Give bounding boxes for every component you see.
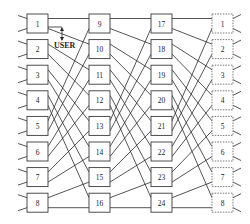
switch-node-label: 4	[36, 96, 40, 105]
shuffle-wire	[110, 182, 151, 198]
switch-node-label: 24	[158, 199, 166, 208]
output-stub	[233, 157, 241, 161]
switch-node-label: 3	[221, 71, 225, 80]
input-stub	[18, 182, 27, 185]
switch-node-label: 19	[158, 71, 166, 80]
output-stub	[233, 117, 241, 121]
output-stub	[233, 105, 241, 109]
input-stub	[18, 29, 27, 32]
shuffle-wire	[172, 29, 212, 121]
omega-network-diagram: 1234567891011121314151617181920212223241…	[0, 0, 250, 224]
input-stub	[18, 208, 27, 211]
shuffle-wire	[48, 54, 89, 131]
shuffle-wire	[172, 54, 212, 131]
switch-node-label: 17	[158, 20, 166, 29]
switch-node-label: 7	[221, 173, 225, 182]
switch-node-label: 2	[36, 45, 40, 54]
stage-2-column: 910111213141516	[89, 14, 110, 212]
input-stub	[18, 67, 27, 70]
output-stub	[233, 194, 241, 198]
switch-node-label: 20	[158, 96, 166, 105]
shuffle-wire	[48, 157, 89, 183]
switch-node-label: 3	[36, 71, 40, 80]
switch-node-label: 9	[98, 20, 102, 29]
user-label: USER	[54, 41, 76, 50]
input-stub	[18, 169, 27, 172]
output-stub	[233, 168, 241, 172]
input-stub	[18, 144, 27, 147]
switch-node-label: 7	[36, 173, 40, 182]
switch-node-label: 16	[96, 199, 104, 208]
switch-node-label: 10	[96, 45, 104, 54]
stage-3-column: 1718192021222324	[151, 14, 172, 212]
output-stub	[233, 54, 241, 58]
input-stub	[18, 16, 27, 19]
shuffle-wire	[110, 29, 151, 121]
shuffle-wire	[48, 182, 89, 198]
output-stub	[233, 15, 241, 19]
stage-4-column: 12345678	[212, 14, 233, 212]
output-stub	[233, 131, 241, 135]
output-stub	[233, 143, 241, 147]
shuffle-wire	[110, 54, 151, 131]
shuffle-wire	[172, 157, 212, 183]
switch-node-label: 8	[221, 199, 225, 208]
shuffle-wire	[172, 182, 212, 198]
input-stub	[18, 195, 27, 198]
stage-1-column: 12345678	[27, 14, 48, 212]
output-stub	[233, 80, 241, 84]
input-stub	[18, 118, 27, 121]
switch-node-label: 6	[36, 148, 40, 157]
shuffle-wire	[110, 157, 151, 183]
output-stub	[233, 29, 241, 33]
input-stub	[18, 54, 27, 57]
input-stub	[18, 105, 27, 108]
switch-node-label: 5	[221, 122, 225, 131]
switch-node-label: 12	[96, 96, 104, 105]
output-stub	[233, 91, 241, 95]
switch-node-label: 1	[36, 20, 40, 29]
switch-node-label: 6	[221, 148, 225, 157]
output-stub	[233, 40, 241, 44]
wires	[18, 15, 241, 212]
switch-node-label: 13	[96, 122, 104, 131]
switch-node-label: 23	[158, 173, 166, 182]
switch-node-label: 5	[36, 122, 40, 131]
input-stub	[18, 131, 27, 134]
input-stub	[18, 157, 27, 160]
input-stub	[18, 92, 27, 95]
arrow-up-head-icon	[60, 27, 64, 31]
switch-node-label: 8	[36, 199, 40, 208]
switch-node-label: 14	[96, 148, 104, 157]
switch-node-label: 11	[96, 71, 103, 80]
switch-node-label: 15	[96, 173, 104, 182]
output-stub	[233, 182, 241, 186]
output-stub	[233, 66, 241, 70]
input-stub	[18, 41, 27, 44]
switch-node-label: 22	[158, 148, 166, 157]
output-stub	[233, 208, 241, 212]
switch-node-label: 2	[221, 45, 225, 54]
switch-node-label: 21	[158, 122, 166, 131]
input-stub	[18, 80, 27, 83]
switch-node-label: 4	[221, 96, 225, 105]
switch-node-label: 1	[221, 20, 225, 29]
switch-node-label: 18	[158, 45, 166, 54]
